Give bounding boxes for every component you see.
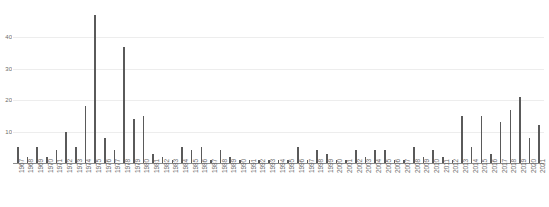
bar <box>538 125 540 163</box>
bar-slot <box>139 6 149 163</box>
bar-chart: 10203040 1967196819691970197119721973197… <box>0 0 549 207</box>
x-tick-slot: 2000 <box>332 166 342 207</box>
bar-slot <box>467 6 477 163</box>
x-tick-slot: 2015 <box>477 166 487 207</box>
x-tick-slot: 1969 <box>32 166 42 207</box>
bar-slot <box>110 6 120 163</box>
bar-slot <box>534 6 544 163</box>
x-tick-slot: 2019 <box>515 166 525 207</box>
x-tick-slot: 1985 <box>187 166 197 207</box>
bar-slot <box>177 6 187 163</box>
x-tick-slot: 1970 <box>42 166 52 207</box>
bar-slot <box>486 6 496 163</box>
bar-slot <box>90 6 100 163</box>
x-tick-slot: 1993 <box>264 166 274 207</box>
x-tick-slot: 1978 <box>119 166 129 207</box>
x-tick-slot: 2013 <box>457 166 467 207</box>
bar-slot <box>13 6 23 163</box>
x-tick-slot: 1977 <box>110 166 120 207</box>
bar-slot <box>409 6 419 163</box>
x-tick-slot: 2005 <box>380 166 390 207</box>
x-tick-slot: 1983 <box>168 166 178 207</box>
x-tick-slot: 1992 <box>254 166 264 207</box>
bar-slot <box>148 6 158 163</box>
bar-slot <box>61 6 71 163</box>
x-tick-slot: 2021 <box>534 166 544 207</box>
x-tick-slot: 2017 <box>496 166 506 207</box>
bars-group <box>13 6 544 163</box>
x-tick-slot: 2010 <box>428 166 438 207</box>
x-tick-slot: 1974 <box>81 166 91 207</box>
x-tick-slot: 2012 <box>448 166 458 207</box>
plot-area: 10203040 <box>13 6 544 164</box>
x-tick-slot: 2001 <box>341 166 351 207</box>
bar-slot <box>225 6 235 163</box>
bar-slot <box>119 6 129 163</box>
bar-slot <box>438 6 448 163</box>
bar-slot <box>496 6 506 163</box>
x-tick-slot: 1967 <box>13 166 23 207</box>
x-tick-slot: 2007 <box>399 166 409 207</box>
bar-slot <box>312 6 322 163</box>
bar-slot <box>351 6 361 163</box>
bar-slot <box>245 6 255 163</box>
bar-slot <box>370 6 380 163</box>
x-tick-slot: 1998 <box>312 166 322 207</box>
bar <box>481 116 483 163</box>
x-tick-slot: 1972 <box>61 166 71 207</box>
bar-slot <box>23 6 33 163</box>
x-tick-slot: 1999 <box>322 166 332 207</box>
x-tick-slot: 2008 <box>409 166 419 207</box>
bar-slot <box>390 6 400 163</box>
x-tick-slot: 2020 <box>525 166 535 207</box>
bar <box>461 116 463 163</box>
x-tick-slot: 1975 <box>90 166 100 207</box>
y-tick-label: 20 <box>0 97 12 103</box>
bar-slot <box>322 6 332 163</box>
bar-slot <box>505 6 515 163</box>
bar <box>510 110 512 163</box>
x-tick-slot: 1990 <box>235 166 245 207</box>
x-tick-slot: 1982 <box>158 166 168 207</box>
bar-slot <box>32 6 42 163</box>
y-tick-label: 10 <box>0 129 12 135</box>
x-tick-slot: 1996 <box>293 166 303 207</box>
x-tick-slot: 1979 <box>129 166 139 207</box>
x-tick-slot: 2003 <box>361 166 371 207</box>
bar-slot <box>380 6 390 163</box>
x-tick-slot: 2016 <box>486 166 496 207</box>
x-tick-slot: 1987 <box>206 166 216 207</box>
x-tick-slot: 2011 <box>438 166 448 207</box>
bar-slot <box>158 6 168 163</box>
bar <box>123 47 125 163</box>
bar <box>500 122 502 163</box>
bar-slot <box>332 6 342 163</box>
x-tick-slot: 2018 <box>505 166 515 207</box>
bar <box>143 116 145 163</box>
bar-slot <box>100 6 110 163</box>
bar-slot <box>196 6 206 163</box>
bar <box>133 119 135 163</box>
bar-slot <box>129 6 139 163</box>
x-tick-slot: 1980 <box>139 166 149 207</box>
bar-slot <box>419 6 429 163</box>
x-tick-slot: 1986 <box>196 166 206 207</box>
x-tick-slot: 2014 <box>467 166 477 207</box>
x-tick-slot: 2009 <box>419 166 429 207</box>
bar-slot <box>235 6 245 163</box>
x-tick-slot: 1984 <box>177 166 187 207</box>
x-tick-slot: 1968 <box>23 166 33 207</box>
bar-slot <box>341 6 351 163</box>
x-tick-slot: 1991 <box>245 166 255 207</box>
x-tick-slot: 1988 <box>216 166 226 207</box>
bar-slot <box>361 6 371 163</box>
x-axis-tick-labels: 1967196819691970197119721973197419751976… <box>13 166 544 207</box>
x-tick-slot: 1989 <box>225 166 235 207</box>
bar-slot <box>457 6 467 163</box>
bar-slot <box>293 6 303 163</box>
bar-slot <box>187 6 197 163</box>
bar-slot <box>71 6 81 163</box>
bar-slot <box>168 6 178 163</box>
x-tick-slot: 1981 <box>148 166 158 207</box>
bar-slot <box>81 6 91 163</box>
